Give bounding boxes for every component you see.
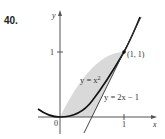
point-marker	[122, 50, 126, 54]
point-label: (1, 1)	[127, 50, 145, 59]
y-axis-arrow-icon	[58, 10, 62, 16]
y-tick-label: 1	[50, 48, 54, 57]
x-tick-label: 1	[122, 120, 126, 129]
x-axis-label: x	[152, 120, 157, 129]
origin-label: 0	[54, 119, 58, 128]
x-axis-arrow-icon	[151, 115, 157, 119]
problem-number: 40.	[4, 15, 18, 26]
line-label: y = 2x − 1	[104, 92, 139, 102]
diagram-canvas: 40. y x 0 1 1 (1, 1) y = x2 y = 2x − 1	[0, 0, 165, 139]
parabola-label-exponent: 2	[98, 75, 101, 81]
parabola-label-text: y = x	[80, 75, 98, 85]
parabola-label: y = x2	[80, 75, 101, 85]
y-axis-label: y	[51, 11, 56, 20]
